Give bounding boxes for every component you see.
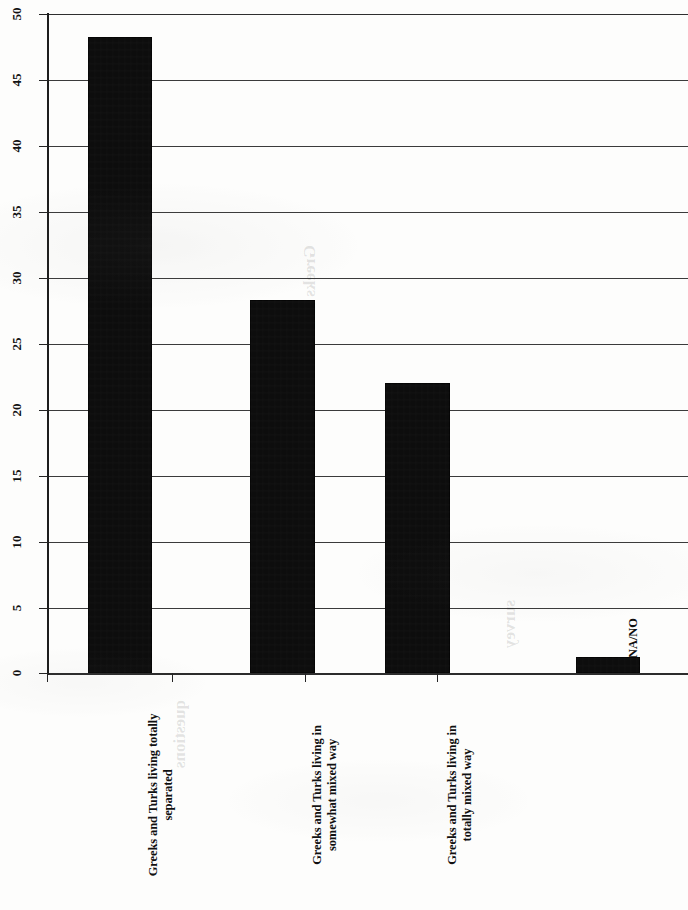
chart-plot-area: questions Greeks and survey results 50 4… — [0, 0, 688, 690]
ytick-label-5: 5 — [9, 591, 25, 625]
ytick-label-25: 25 — [9, 327, 25, 361]
gridline-50 — [47, 14, 688, 15]
ytick-mark-30 — [39, 278, 48, 279]
scanned-page: questions Greeks and survey results 50 4… — [0, 0, 688, 910]
category-label-1-line-2: somewhat mixed way — [325, 685, 340, 905]
category-label-0-line-2: separated — [161, 685, 176, 905]
xtick-mark-2 — [305, 673, 306, 682]
ytick-mark-10 — [39, 542, 48, 543]
ytick-mark-45 — [39, 80, 48, 81]
axis-baseline — [47, 673, 688, 675]
category-label-3-line-1: NA/NO — [626, 528, 641, 748]
category-label-0: Greeks and Turks living totally separate… — [146, 685, 177, 905]
xtick-mark-3 — [437, 673, 438, 682]
ytick-label-15: 15 — [9, 459, 25, 493]
bar-greeks-turks-totally-separated — [88, 37, 152, 673]
ytick-mark-25 — [39, 344, 48, 345]
category-label-1-line-1: Greeks and Turks living in — [310, 685, 325, 905]
ytick-mark-50 — [39, 14, 48, 15]
ytick-label-35: 35 — [9, 195, 25, 229]
ytick-mark-15 — [39, 476, 48, 477]
category-label-1: Greeks and Turks living in somewhat mixe… — [310, 685, 341, 905]
ytick-label-40: 40 — [9, 129, 25, 163]
ytick-label-30: 30 — [9, 261, 25, 295]
category-label-2-line-1: Greeks and Turks living in — [445, 685, 460, 905]
category-label-0-line-1: Greeks and Turks living totally — [146, 685, 161, 905]
ytick-mark-40 — [39, 146, 48, 147]
ytick-label-50: 50 — [9, 0, 25, 31]
ytick-mark-5 — [39, 608, 48, 609]
xtick-mark-1 — [172, 673, 173, 682]
ytick-label-10: 10 — [9, 525, 25, 559]
ytick-label-20: 20 — [9, 393, 25, 427]
xtick-mark-0 — [47, 673, 48, 682]
ytick-mark-35 — [39, 212, 48, 213]
ytick-label-45: 45 — [9, 63, 25, 97]
category-label-2: Greeks and Turks living in totally mixed… — [445, 685, 476, 905]
ytick-mark-20 — [39, 410, 48, 411]
ytick-label-0: 0 — [9, 656, 25, 690]
bar-greeks-turks-totally-mixed — [385, 383, 450, 673]
bar-greeks-turks-somewhat-mixed — [250, 300, 315, 673]
category-label-3: NA/NO — [626, 528, 641, 748]
category-label-2-line-2: totally mixed way — [460, 685, 475, 905]
